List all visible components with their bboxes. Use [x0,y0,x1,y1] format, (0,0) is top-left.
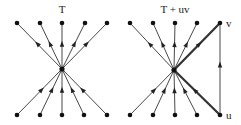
edge-bottom-to-center [130,70,174,115]
node-top [195,21,200,26]
edge-center-to-top [17,23,62,69]
node-bottom [173,113,178,118]
node-bottom [195,113,200,118]
node-center [171,67,176,72]
arrow-icon [60,41,64,47]
node-center [59,66,64,71]
edge-bottom-to-center [174,70,220,115]
diagram-T-plus-uv [128,21,223,118]
arrow-icon [183,40,190,47]
arrow-icon [218,61,222,67]
edge-center-to-top [62,23,107,69]
edge-center-to-top [130,23,174,70]
node-bottom [218,113,223,118]
node-bottom [82,113,87,118]
arrow-icon [172,87,177,93]
node-bottom [60,113,65,118]
edge-center-to-top [174,23,220,70]
node-top [218,21,223,26]
arrow-icon [172,41,177,47]
diagram-title-T: T [59,3,66,15]
node-bottom [105,113,110,118]
arrow-icon [69,86,76,93]
arrow-icon [161,87,168,94]
node-bottom [15,113,20,118]
node-top [151,21,156,26]
diagram-T [15,21,110,118]
node-top [38,21,43,26]
node-label-u: u [226,109,232,121]
arrow-icon [159,41,165,48]
diagram-title-T-plus-uv: T + uv [160,3,190,15]
tree-diagrams: T T + uv v u [0,0,241,125]
arrow-icon [47,40,54,47]
node-bottom [151,113,156,118]
node-top [105,21,110,26]
edge-bottom-to-center [17,69,62,115]
node-bottom [128,113,133,118]
arrow-icon [71,40,78,47]
edge-bottom-to-center [62,69,107,115]
node-bottom [38,113,43,118]
node-top [173,21,178,26]
node-top [15,21,20,26]
arrow-icon [49,86,56,93]
node-top [128,21,133,26]
node-top [83,21,88,26]
node-top [60,21,65,26]
arrow-icon [60,87,64,93]
arrow-icon [181,87,188,94]
node-label-v: v [226,17,232,29]
